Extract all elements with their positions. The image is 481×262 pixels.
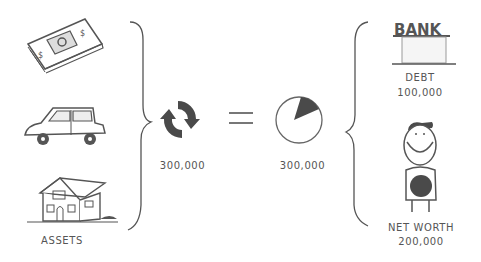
bank-icon: BANK <box>392 22 457 67</box>
house-icon <box>25 175 120 225</box>
svg-text:$: $ <box>80 29 85 38</box>
right-brace <box>343 20 373 230</box>
money-stack-icon: $ $ <box>25 14 105 69</box>
debt-label: DEBT <box>395 72 445 83</box>
left-brace <box>125 20 155 230</box>
car-icon <box>23 103 108 148</box>
svg-text:$: $ <box>38 51 43 60</box>
net-worth-label: NET WORTH <box>385 222 457 233</box>
assets-label: ASSETS <box>32 235 92 246</box>
net-worth-value: 200,000 <box>393 236 449 247</box>
equals-icon <box>228 110 254 126</box>
pie-value: 300,000 <box>275 160 330 171</box>
refresh-cycle-icon <box>160 97 200 142</box>
person-icon <box>400 120 455 220</box>
liquidity-value: 300,000 <box>155 160 210 171</box>
pie-chart-icon <box>274 95 324 145</box>
debt-value: 100,000 <box>392 87 448 98</box>
